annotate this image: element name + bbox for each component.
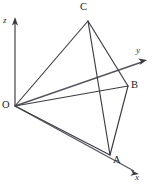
axis-label-y: y: [136, 46, 140, 55]
edge-OB: [15, 86, 128, 106]
edge-group: [15, 21, 128, 155]
vertex-label-B: B: [131, 80, 138, 91]
vertex-label-C: C: [80, 2, 87, 13]
edge-AB: [110, 86, 128, 155]
axis-label-x: x: [135, 173, 139, 182]
edge-OA: [15, 106, 110, 155]
edge-CB: [88, 21, 128, 86]
edge-CA: [88, 21, 110, 155]
figure-container: O A B C z y x: [0, 0, 152, 186]
axis-group: [12, 17, 147, 176]
tetrahedron-diagram: [0, 0, 152, 186]
vertex-label-A: A: [113, 155, 121, 166]
vertex-label-O: O: [2, 100, 10, 111]
axis-label-z: z: [3, 16, 7, 25]
axis-arrowhead-y: [138, 58, 147, 65]
